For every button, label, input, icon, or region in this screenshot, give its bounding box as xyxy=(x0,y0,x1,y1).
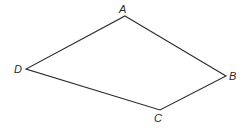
quadrilateral-diagram: A B C D xyxy=(0,0,242,130)
quadrilateral-abcd xyxy=(26,16,226,110)
vertex-label-d: D xyxy=(14,63,22,75)
vertex-label-a: A xyxy=(118,3,126,15)
vertex-label-c: C xyxy=(154,112,162,124)
vertex-labels: A B C D xyxy=(14,3,236,124)
vertex-label-b: B xyxy=(229,70,236,82)
